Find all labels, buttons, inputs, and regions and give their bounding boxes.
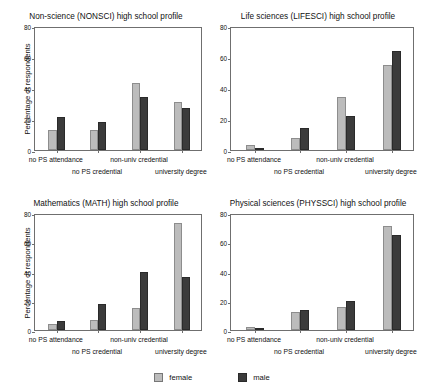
y-tick xyxy=(32,303,35,304)
y-tick-label: 40 xyxy=(24,87,31,93)
x-tick xyxy=(182,330,183,333)
bar-female xyxy=(174,102,182,150)
bar-male xyxy=(346,116,355,150)
bar-male xyxy=(392,51,401,150)
y-tick-label: 0 xyxy=(223,329,227,335)
bar-male xyxy=(57,117,65,150)
y-tick-label: 60 xyxy=(220,56,227,62)
x-category-label: university degree xyxy=(155,168,207,175)
x-tick xyxy=(98,330,99,333)
x-tick xyxy=(255,150,256,153)
y-tick-label: 60 xyxy=(24,241,31,247)
y-tick xyxy=(228,215,231,216)
y-tick xyxy=(228,121,231,122)
x-category-label: no PS credential xyxy=(274,348,324,355)
x-tick xyxy=(182,150,183,153)
y-tick-label: 80 xyxy=(220,212,227,218)
bar-female xyxy=(174,223,182,330)
y-tick-label: 20 xyxy=(24,300,31,306)
legend-item-female: female xyxy=(154,373,192,382)
plot-area: 020406080 xyxy=(230,27,414,151)
bar-female xyxy=(246,327,255,330)
bar-female xyxy=(291,138,300,150)
x-tick xyxy=(140,150,141,153)
y-tick xyxy=(32,152,35,153)
x-tick xyxy=(300,150,301,153)
legend: female male xyxy=(0,373,424,382)
y-tick xyxy=(228,244,231,245)
bar-male xyxy=(300,310,309,330)
x-category-label: university degree xyxy=(155,348,207,355)
panel-physsci: Physical sciences (PHYSSCI) high school … xyxy=(212,192,424,357)
legend-label-male: male xyxy=(253,373,269,382)
y-tick-label: 80 xyxy=(220,25,227,31)
bar-female xyxy=(337,97,346,150)
x-tick xyxy=(57,150,58,153)
bar-male xyxy=(98,304,106,330)
y-tick-label: 80 xyxy=(24,212,31,218)
x-tick xyxy=(98,150,99,153)
bar-female xyxy=(132,308,140,330)
x-category-label: no PS attendance xyxy=(29,336,83,343)
bar-female xyxy=(246,145,255,150)
x-category-label: no PS credential xyxy=(274,168,324,175)
y-tick xyxy=(32,90,35,91)
y-tick-label: 80 xyxy=(24,25,31,31)
y-tick-label: 0 xyxy=(27,149,31,155)
bar-male xyxy=(346,301,355,330)
bar-male xyxy=(255,148,264,150)
bar-male xyxy=(300,128,309,150)
bar-female xyxy=(383,226,392,330)
y-tick xyxy=(228,28,231,29)
plot-area: 020406080 xyxy=(34,27,202,151)
bar-female xyxy=(337,307,346,330)
y-tick xyxy=(32,332,35,333)
y-tick-label: 20 xyxy=(220,118,227,124)
panel-title: Non-science (NONSCI) high school profile xyxy=(0,11,212,22)
legend-label-female: female xyxy=(169,373,192,382)
bar-female xyxy=(132,83,140,150)
y-tick-label: 0 xyxy=(27,329,31,335)
y-tick-label: 40 xyxy=(24,271,31,277)
bar-female xyxy=(48,130,56,150)
bar-male xyxy=(392,235,401,330)
plot-area: 020406080 xyxy=(34,214,202,331)
x-category-label: non-univ credential xyxy=(316,336,373,343)
panel-title: Life sciences (LIFESCI) high school prof… xyxy=(212,11,424,22)
y-tick xyxy=(32,274,35,275)
x-category-label: non-univ credential xyxy=(316,156,373,163)
x-tick xyxy=(255,330,256,333)
x-tick xyxy=(140,330,141,333)
y-tick xyxy=(32,28,35,29)
y-tick-label: 40 xyxy=(220,271,227,277)
x-category-label: non-univ credential xyxy=(110,336,167,343)
bar-male xyxy=(57,321,65,330)
bar-male xyxy=(140,97,148,150)
x-tick xyxy=(57,330,58,333)
panel-math: Mathematics (MATH) high school profilePe… xyxy=(0,192,212,357)
y-tick-label: 20 xyxy=(24,118,31,124)
x-category-label: non-univ credential xyxy=(110,156,167,163)
y-tick xyxy=(32,244,35,245)
x-tick xyxy=(392,330,393,333)
y-tick xyxy=(228,332,231,333)
y-tick xyxy=(32,59,35,60)
bar-male xyxy=(255,328,264,330)
y-tick-label: 40 xyxy=(220,87,227,93)
x-tick xyxy=(346,150,347,153)
x-category-label: no PS attendance xyxy=(29,156,83,163)
x-tick xyxy=(392,150,393,153)
bar-male xyxy=(182,108,190,150)
figure-grid: Non-science (NONSCI) high school profile… xyxy=(0,0,424,386)
y-tick-label: 60 xyxy=(24,56,31,62)
y-tick xyxy=(228,303,231,304)
panel-lifesci: Life sciences (LIFESCI) high school prof… xyxy=(212,2,424,192)
y-tick xyxy=(228,274,231,275)
x-tick xyxy=(300,330,301,333)
x-category-label: university degree xyxy=(365,168,417,175)
y-tick-label: 0 xyxy=(223,149,227,155)
bar-male xyxy=(140,272,148,331)
legend-item-male: male xyxy=(238,373,269,382)
x-category-label: no PS credential xyxy=(72,168,122,175)
x-category-label: no PS credential xyxy=(72,348,122,355)
